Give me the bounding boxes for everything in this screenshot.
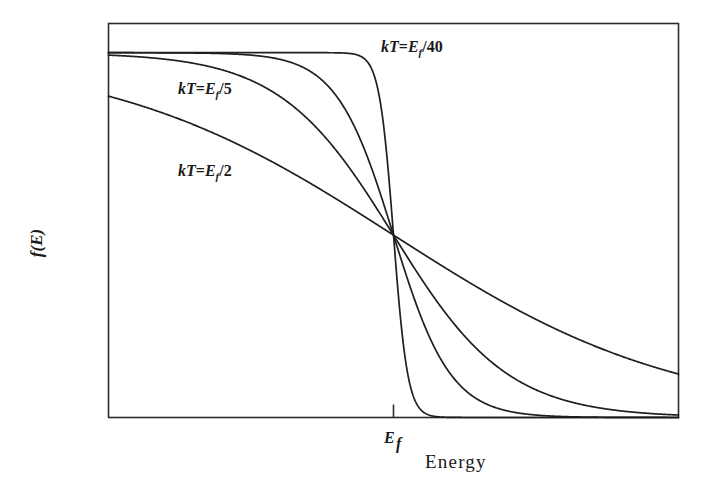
- curve-4: [109, 96, 679, 374]
- x-tick-label-ef: E f: [383, 429, 403, 453]
- ann-kt-40: kT=Ef/40: [381, 38, 443, 58]
- chart-canvas: E f Energy f(E) kT=Ef/40kT=Ef/5kT=Ef/2: [0, 0, 701, 486]
- fermi-dirac-figure: E f Energy f(E) kT=Ef/40kT=Ef/5kT=Ef/2: [0, 0, 701, 486]
- ann-kt-5: kT=Ef/5: [178, 80, 232, 100]
- x-tick-label-sub: f: [396, 435, 403, 453]
- y-axis-title: f(E): [27, 229, 46, 257]
- x-axis-title: Energy: [425, 451, 487, 472]
- ann-kt-2: kT=Ef/2: [178, 162, 232, 182]
- curve-group: [109, 53, 679, 418]
- curve-annotations: kT=Ef/40kT=Ef/5kT=Ef/2: [178, 38, 443, 182]
- x-tick-label-main: E: [383, 429, 395, 446]
